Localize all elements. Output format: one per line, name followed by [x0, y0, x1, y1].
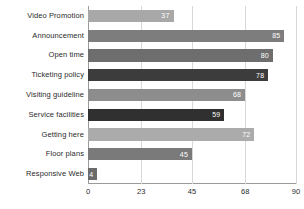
- category-axis: Video PromotionAnnouncementOpen timeTick…: [0, 6, 84, 184]
- x-tick-label: 23: [137, 188, 145, 196]
- category-label: Announcement: [32, 32, 84, 40]
- bar-row: 4: [88, 168, 296, 180]
- bar: 68: [88, 89, 245, 101]
- bar-value-label: 68: [233, 91, 245, 98]
- category-label: Floor plans: [46, 150, 84, 158]
- x-tick-label: 68: [241, 188, 249, 196]
- bar-value-label: 72: [242, 131, 254, 138]
- x-tick-label: 90: [292, 188, 300, 196]
- bar: 4: [88, 168, 97, 180]
- bar: 72: [88, 128, 254, 140]
- bar: 80: [88, 49, 273, 61]
- bar-value-label: 45: [180, 151, 192, 158]
- category-label: Visiting guideline: [26, 91, 84, 99]
- bar-row: 78: [88, 69, 296, 81]
- category-label: Responsive Web: [26, 170, 84, 178]
- bar-row: 59: [88, 109, 296, 121]
- category-label: Video Promotion: [27, 12, 84, 20]
- bar-value-label: 85: [272, 32, 284, 39]
- bar: 78: [88, 69, 268, 81]
- category-label: Service facilities: [28, 111, 84, 119]
- bar: 85: [88, 30, 284, 42]
- x-tick-label: 45: [188, 188, 196, 196]
- x-axis-tick-labels: 023456890: [88, 186, 296, 202]
- bar-value-label: 80: [261, 52, 273, 59]
- bar-row: 72: [88, 128, 296, 140]
- gridline: [296, 6, 297, 184]
- category-label: Ticketing policy: [31, 71, 84, 79]
- bar-value-label: 59: [212, 111, 224, 118]
- bar-chart: Video PromotionAnnouncementOpen timeTick…: [0, 0, 304, 209]
- bar-row: 80: [88, 49, 296, 61]
- bar-row: 45: [88, 148, 296, 160]
- bar: 59: [88, 109, 224, 121]
- category-label: Getting here: [42, 131, 84, 139]
- bar-value-label: 78: [256, 72, 268, 79]
- bar-row: 85: [88, 30, 296, 42]
- bar-value-label: 4: [89, 171, 97, 178]
- x-tick-label: 0: [86, 188, 90, 196]
- plot-area: 37858078685972454: [88, 6, 296, 184]
- bar-row: 68: [88, 89, 296, 101]
- bar-value-label: 37: [161, 12, 173, 19]
- bar: 37: [88, 10, 174, 22]
- bar: 45: [88, 148, 192, 160]
- category-label: Open time: [49, 51, 85, 59]
- bar-row: 37: [88, 10, 296, 22]
